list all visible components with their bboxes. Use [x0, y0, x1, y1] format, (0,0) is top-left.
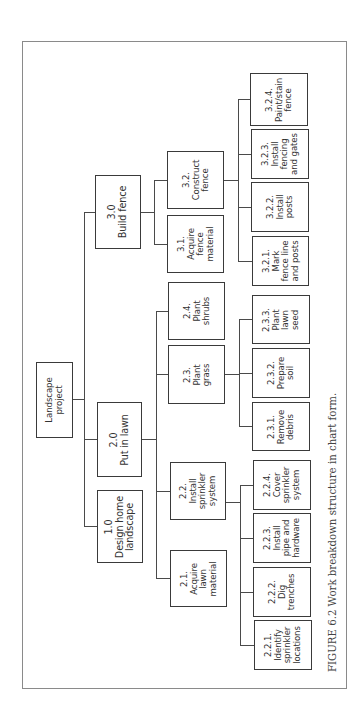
connector-to-2.0	[84, 439, 97, 440]
node-label: 2.1. Acquire lawn material	[179, 561, 217, 596]
node-3.2.4-paint-stain-fence: 3.2.4. Paint/stain fence	[250, 73, 308, 126]
connector-to-3.1	[154, 244, 167, 245]
connector-3.2.x-spine	[238, 99, 239, 262]
connector-to-2.4	[156, 311, 168, 312]
connector-to-3.2	[154, 180, 167, 181]
connector-to-3.2.1	[238, 261, 252, 262]
node-3.2.1-mark-fence-line-and-posts: 3.2.1. Mark fence line and posts	[252, 236, 309, 286]
node-landscape-project: Landscape project	[36, 362, 73, 438]
connector-3.x-spine	[154, 180, 155, 245]
wbs-diagram: Landscape project 3.0 Build fence 2.0 Pu…	[0, 0, 363, 725]
connector-to-3.0	[84, 212, 95, 213]
figure-caption: FIGURE 6.2 Work breakdown structure in c…	[327, 393, 338, 672]
node-2.1-acquire-lawn-material: 2.1. Acquire lawn material	[170, 550, 227, 607]
node-label: 1.0 Design home landscape	[104, 495, 136, 557]
connector-to-3.2.4	[238, 99, 250, 100]
connector-2.x-spine	[156, 311, 157, 579]
connector-2.2.x-spine	[240, 485, 241, 646]
connector-3.2-out	[224, 180, 238, 181]
connector-to-2.2.2	[240, 592, 253, 593]
node-label: 3.2.3. Install fencing and gates	[261, 133, 299, 175]
node-label: 2.3. Plant grass	[182, 363, 211, 386]
node-3.2-construct-fence: 3.2. Construct fence	[167, 151, 224, 209]
connector-to-1.0	[84, 526, 97, 527]
connector-2.3-out	[225, 374, 239, 375]
node-label: 2.3.1. Remove debris	[267, 409, 296, 443]
connector-to-2.3.1	[239, 426, 252, 427]
node-label: 2.2.2. Dig trenches	[268, 574, 297, 611]
node-label: 2.0 Put in lawn	[109, 414, 130, 466]
node-label: 3.2.1. Mark fence line and posts	[261, 240, 299, 281]
node-2.2-install-sprinkler-system: 2.2. Install sprinkler system	[170, 462, 226, 520]
connector-to-3.2.2	[238, 207, 251, 208]
connector-root	[73, 399, 84, 400]
node-2.2.3-install-pipe-and-hardware: 2.2.3. Install pipe and hardware	[253, 513, 311, 563]
node-2.2.4-cover-sprinkler-system: 2.2.4. Cover sprinkler system	[253, 460, 311, 510]
node-label: 3.2.2. Install posts	[266, 194, 295, 219]
node-2.3-plant-grass: 2.3. Plant grass	[168, 345, 225, 404]
connector-to-2.2	[156, 491, 170, 492]
node-2.3.1-remove-debris: 2.3.1. Remove debris	[252, 402, 310, 451]
connector-to-2.2.4	[240, 485, 253, 486]
node-2.2.1-identify-sprinkler-locations: 2.2.1. Identify sprinkler locations	[254, 620, 312, 670]
connector-3.0-out	[141, 212, 154, 213]
node-label: 2.4. Plant shrubs	[182, 297, 211, 325]
node-3.2.2-install-posts: 3.2.2. Install posts	[251, 182, 309, 232]
node-label: 2.2.3. Install pipe and hardware	[263, 518, 301, 558]
node-label: 2.2. Install sprinkler system	[179, 473, 217, 510]
node-label: 3.1. Acquire fence material	[176, 226, 214, 261]
connector-to-3.2.3	[238, 154, 251, 155]
node-2.0-put-in-lawn: 2.0 Put in lawn	[97, 402, 142, 477]
node-2.2.2-dig-trenches: 2.2.2. Dig trenches	[253, 567, 311, 617]
node-2.3.3-plant-lawn-seed: 2.3.3. Plant lawn seed	[252, 295, 310, 344]
node-2.3.2-prepare-soil: 2.3.2. Prepare soil	[252, 348, 310, 398]
node-label: 2.3.2. Prepare soil	[267, 357, 296, 389]
connector-to-2.2.3	[240, 538, 253, 539]
connector-level1-spine	[84, 212, 85, 527]
connector-2.0-out	[142, 439, 156, 440]
node-3.1-acquire-fence-material: 3.1. Acquire fence material	[167, 215, 224, 273]
node-1.0-design-home-landscape: 1.0 Design home landscape	[97, 490, 143, 563]
node-3.0-build-fence: 3.0 Build fence	[95, 175, 141, 249]
connector-to-2.3.2	[239, 373, 252, 374]
node-label: 2.2.4. Cover sprinkler system	[263, 467, 301, 504]
connector-to-2.3.3	[239, 319, 252, 320]
node-label: 2.2.1. Identify sprinkler locations	[264, 626, 302, 664]
connector-2.2-out	[226, 502, 240, 503]
node-3.2.3-install-fencing-and-gates: 3.2.3. Install fencing and gates	[251, 129, 309, 179]
node-label: 3.2. Construct fence	[181, 160, 210, 201]
node-label: 3.0 Build fence	[107, 186, 128, 239]
node-2.4-plant-shrubs: 2.4. Plant shrubs	[168, 282, 225, 340]
connector-to-2.3	[156, 374, 168, 375]
node-label: 3.2.4. Paint/stain fence	[265, 77, 294, 121]
connector-to-2.2.1	[240, 645, 254, 646]
node-label: Landscape project	[45, 377, 64, 422]
connector-to-2.1	[156, 578, 170, 579]
node-label: 2.3.3. Plant lawn seed	[262, 308, 300, 332]
